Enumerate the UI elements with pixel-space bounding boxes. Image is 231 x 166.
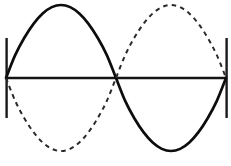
wave-diagram-svg [0, 0, 231, 166]
sine-wave-figure [0, 0, 231, 166]
